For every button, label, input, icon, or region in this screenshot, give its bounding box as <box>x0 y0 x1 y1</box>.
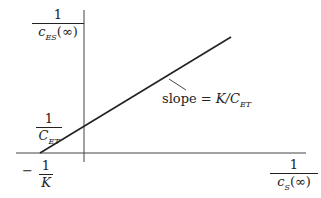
x-axis-label-denominator: cS(∞) <box>270 175 318 195</box>
y-intercept-label: 1 CET <box>36 112 62 149</box>
slope-label: slope = K/CET <box>162 91 251 109</box>
x-intercept-denominator: K <box>39 176 53 190</box>
x-axis-label: 1 cS(∞) <box>270 158 318 195</box>
y-axis-label-denominator: cES(∞) <box>32 25 84 45</box>
x-intercept-sign: − <box>22 163 33 178</box>
y-intercept-numerator: 1 <box>36 112 62 126</box>
slope-leader-line <box>169 79 186 90</box>
x-axis-label-numerator: 1 <box>270 158 318 172</box>
x-intercept-label: 1 K <box>39 159 53 190</box>
x-intercept-numerator: 1 <box>39 159 53 173</box>
y-axis-label-numerator: 1 <box>32 8 84 22</box>
y-intercept-denominator: CET <box>36 129 62 149</box>
y-axis-label: 1 cES(∞) <box>32 8 84 45</box>
